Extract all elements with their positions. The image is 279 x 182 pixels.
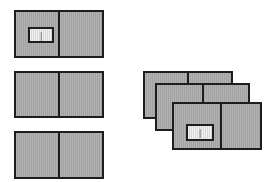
card-divider (58, 133, 60, 177)
inner-box-left-1-label: | (40, 29, 42, 40)
card-left-1[interactable]: | (14, 10, 104, 58)
inner-box-left-1[interactable]: | (28, 27, 54, 43)
card-divider (58, 73, 60, 116)
card-stack-front[interactable]: | (172, 102, 262, 150)
card-left-2[interactable] (14, 71, 104, 118)
card-left-3[interactable] (14, 131, 104, 179)
inner-box-stack-front-label: | (199, 127, 201, 138)
diagram-canvas: | | (0, 0, 279, 182)
card-divider (220, 104, 222, 148)
card-divider (58, 12, 60, 56)
inner-box-stack-front[interactable]: | (186, 124, 214, 141)
